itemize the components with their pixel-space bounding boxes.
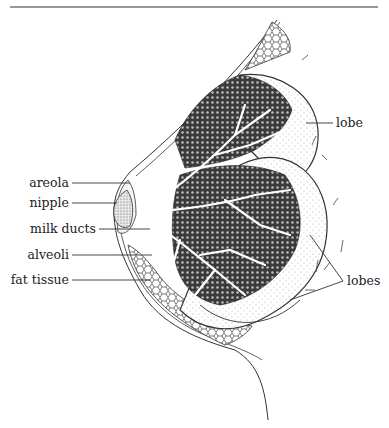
label-areola: areola [0, 176, 69, 190]
label-milk-ducts: milk ducts [0, 222, 96, 236]
fat-upper [245, 22, 290, 70]
label-fat-tissue: fat tissue [0, 273, 69, 287]
label-nipple: nipple [0, 196, 69, 210]
label-lobe: lobe [336, 116, 363, 130]
label-alveoli: alveoli [0, 248, 69, 262]
label-lobes: lobes [347, 274, 380, 288]
breast-anatomy-diagram [0, 0, 389, 428]
